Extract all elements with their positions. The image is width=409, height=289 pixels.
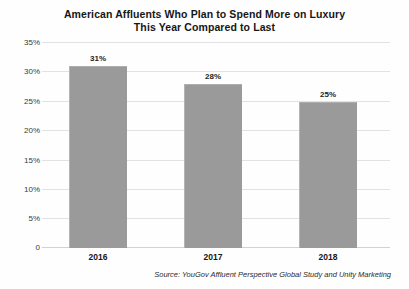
y-tick-label-25: 25% [4,97,40,106]
y-tick-label-20: 20% [4,126,40,135]
y-axis: 35% 30% 25% 20% 15% 10% 5% 0 [0,42,40,248]
bar-value-2016: 31% [69,54,127,63]
bars-layer: 31% 28% 25% [42,42,390,248]
x-tick-label-2018: 2018 [299,252,357,262]
bar-2018[interactable] [299,102,357,248]
chart-title: American Affluents Who Plan to Spend Mor… [0,8,409,34]
chart-title-line-1: American Affluents Who Plan to Spend Mor… [0,8,409,21]
x-tick-label-2016: 2016 [69,252,127,262]
y-tick-label-5: 5% [4,214,40,223]
bar-value-2017: 28% [184,72,242,81]
y-tick-label-10: 10% [4,185,40,194]
bar-value-2018: 25% [299,90,357,99]
source-note: Source: YouGov Affluent Perspective Glob… [154,270,391,279]
y-tick-label-35: 35% [4,38,40,47]
y-tick-label-0: 0 [4,243,40,252]
y-tick-label-30: 30% [4,67,40,76]
y-tick-label-15: 15% [4,156,40,165]
bar-chart-figure: American Affluents Who Plan to Spend Mor… [0,0,409,289]
chart-title-line-2: This Year Compared to Last [0,21,409,34]
bar-2016[interactable] [69,66,127,248]
x-axis: 2016 2017 2018 [42,252,390,266]
bar-2017[interactable] [184,84,242,248]
x-tick-label-2017: 2017 [184,252,242,262]
